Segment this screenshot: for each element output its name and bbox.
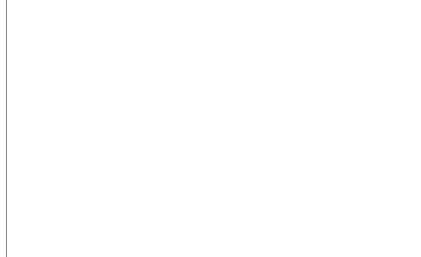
cost-breakdown-chart — [0, 0, 421, 257]
